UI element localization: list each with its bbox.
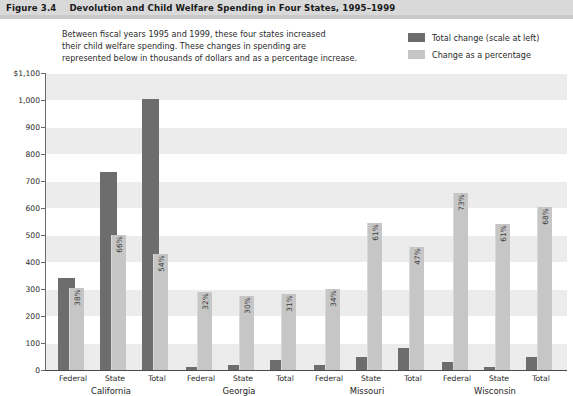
- bar-percentage-label: 30%: [243, 297, 252, 313]
- x-axis-tick-label: Federal: [50, 374, 96, 383]
- y-axis-line: [45, 73, 46, 371]
- bar-change-percentage[interactable]: 54%: [153, 254, 168, 370]
- gridline: [46, 181, 567, 182]
- chart-legend: Total change (scale at left) Change as a…: [408, 29, 573, 63]
- legend-swatch-change-percentage: [408, 50, 425, 59]
- bar-change-percentage[interactable]: 68%: [537, 207, 552, 370]
- x-axis-tick-label: Total: [390, 374, 436, 383]
- gridline: [46, 154, 567, 155]
- y-axis-tick-label: 800: [0, 150, 40, 159]
- gridline: [46, 100, 567, 101]
- y-axis-tick-mark: [41, 73, 45, 74]
- caption-line-1: Between fiscal years 1995 and 1999, thes…: [62, 28, 374, 40]
- bar-percentage-label: 73%: [457, 194, 466, 210]
- y-axis-tick-label: 700: [0, 177, 40, 186]
- y-axis-tick-mark: [41, 181, 45, 182]
- legend-swatch-total-change: [408, 33, 425, 42]
- bar-change-percentage[interactable]: 30%: [239, 296, 254, 370]
- x-axis-labels: FederalStateTotalCaliforniaFederalStateT…: [46, 374, 567, 396]
- grid-band: [46, 181, 567, 208]
- y-axis-tick-mark: [41, 235, 45, 236]
- x-axis-tick-label: Total: [134, 374, 180, 383]
- bar-percentage-label: 34%: [329, 290, 338, 306]
- bar-percentage-label: 68%: [541, 208, 550, 224]
- bar-change-percentage[interactable]: 47%: [409, 247, 424, 370]
- x-axis-group-label: California: [48, 386, 174, 396]
- y-axis-tick-label: 500: [0, 231, 40, 240]
- y-axis-tick-label: 600: [0, 204, 40, 213]
- bar-change-percentage[interactable]: 66%: [111, 235, 126, 370]
- y-axis-tick-mark: [41, 343, 45, 344]
- bar-percentage-label: 47%: [413, 248, 422, 264]
- x-axis-tick-label: Total: [262, 374, 308, 383]
- x-axis-tick-label: State: [476, 374, 522, 383]
- x-axis-group-label: Wisconsin: [432, 386, 558, 396]
- y-axis-tick-mark: [41, 208, 45, 209]
- caption-line-2: their child welfare spending. These chan…: [62, 40, 374, 52]
- x-axis-tick-label: Federal: [178, 374, 224, 383]
- gridline: [46, 208, 567, 209]
- bar-percentage-label: 38%: [73, 289, 82, 305]
- grid-band: [46, 73, 567, 100]
- bar-percentage-label: 32%: [201, 293, 210, 309]
- bar-change-percentage[interactable]: 61%: [495, 224, 510, 370]
- figure-title: Devolution and Child Welfare Spending in…: [69, 3, 395, 13]
- y-axis-tick-mark: [41, 316, 45, 317]
- figure-caption: Between fiscal years 1995 and 1999, thes…: [62, 28, 374, 65]
- bar-change-percentage[interactable]: 73%: [453, 193, 468, 370]
- legend-item-change-percentage: Change as a percentage: [408, 46, 573, 63]
- x-axis-line: [45, 370, 567, 371]
- y-axis-tick-label: 0: [0, 366, 40, 375]
- bar-change-percentage[interactable]: 31%: [281, 294, 296, 370]
- y-axis-tick-mark: [41, 154, 45, 155]
- bar-percentage-label: 31%: [285, 295, 294, 311]
- figure-title-bar: Figure 3.4 Devolution and Child Welfare …: [0, 0, 573, 15]
- y-axis-tick-label: $1,100: [0, 69, 40, 78]
- grid-band: [46, 127, 567, 154]
- y-axis-tick-mark: [41, 370, 45, 371]
- x-axis-tick-label: Total: [518, 374, 564, 383]
- bar-change-percentage[interactable]: 32%: [197, 292, 212, 370]
- y-axis-tick-label: 900: [0, 123, 40, 132]
- x-axis-tick-label: State: [348, 374, 394, 383]
- x-axis-group-label: Missouri: [304, 386, 430, 396]
- bar-percentage-label: 54%: [157, 255, 166, 271]
- bar-change-percentage[interactable]: 38%: [69, 288, 84, 370]
- x-axis-tick-label: State: [220, 374, 266, 383]
- bar-change-percentage[interactable]: 34%: [325, 289, 340, 370]
- caption-line-3: represented below in thousands of dollar…: [62, 52, 374, 64]
- legend-label-change-percentage: Change as a percentage: [432, 50, 531, 60]
- y-axis-tick-label: 100: [0, 339, 40, 348]
- plot-area: 38%66%54%32%30%31%34%61%47%73%61%68%: [46, 73, 567, 370]
- legend-label-total-change: Total change (scale at left): [432, 33, 539, 43]
- x-axis-tick-label: Federal: [306, 374, 352, 383]
- y-axis-tick-label: 400: [0, 258, 40, 267]
- bar-change-percentage[interactable]: 61%: [367, 223, 382, 370]
- y-axis-tick-label: 1,000: [0, 96, 40, 105]
- y-axis-tick-label: 300: [0, 285, 40, 294]
- bar-percentage-label: 61%: [499, 225, 508, 241]
- x-axis-group-label: Georgia: [176, 386, 302, 396]
- y-axis-tick-mark: [41, 289, 45, 290]
- bar-chart: 38%66%54%32%30%31%34%61%47%73%61%68% $1,…: [0, 66, 573, 395]
- bar-percentage-label: 66%: [115, 236, 124, 252]
- y-axis-tick-mark: [41, 127, 45, 128]
- figure-number: Figure 3.4: [6, 3, 56, 13]
- x-axis-tick-label: Federal: [434, 374, 480, 383]
- title-bar-underline: [0, 15, 573, 19]
- gridline: [46, 127, 567, 128]
- gridline: [46, 73, 567, 74]
- y-axis-tick-mark: [41, 262, 45, 263]
- bar-percentage-label: 61%: [371, 224, 380, 240]
- y-axis-tick-mark: [41, 100, 45, 101]
- y-axis-tick-label: 200: [0, 312, 40, 321]
- legend-item-total-change: Total change (scale at left): [408, 29, 573, 46]
- x-axis-tick-label: State: [92, 374, 138, 383]
